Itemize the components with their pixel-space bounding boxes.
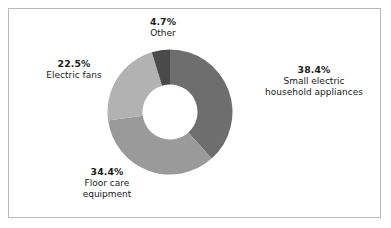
slice-label-floor-care: 34.4% Floor care equipment — [52, 166, 162, 201]
slice-percent-electric-fans: 22.5% — [22, 58, 126, 70]
donut-slices — [107, 50, 232, 175]
slice-percent-floor-care: 34.4% — [52, 166, 162, 178]
slice-name-floor-care-line1: Floor care — [52, 178, 162, 190]
slice-name-floor-care-line2: equipment — [52, 189, 162, 201]
slice-name-electric-fans: Electric fans — [22, 70, 126, 82]
slice-label-other: 4.7% Other — [118, 16, 208, 39]
slice-percent-small-electric: 38.4% — [248, 64, 380, 76]
slice-label-small-electric: 38.4% Small electric household appliance… — [248, 64, 380, 99]
slice-percent-other: 4.7% — [118, 16, 208, 28]
slice-name-small-electric-line1: Small electric — [248, 76, 380, 88]
slice-name-other: Other — [118, 28, 208, 40]
slice-name-small-electric-line2: household appliances — [248, 87, 380, 99]
slice-label-electric-fans: 22.5% Electric fans — [22, 58, 126, 81]
chart-figure: 4.7% Other 22.5% Electric fans 34.4% Flo… — [0, 0, 391, 228]
